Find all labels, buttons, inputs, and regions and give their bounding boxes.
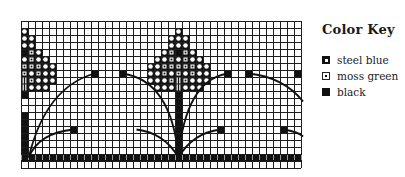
legend-item-steel-blue: steel blue (322, 52, 404, 68)
steel-blue-swatch-icon (322, 56, 330, 64)
color-key: Color Key steel blue moss green black (322, 22, 404, 100)
legend-label: black (337, 86, 366, 98)
moss-green-swatch-icon (322, 72, 330, 80)
legend-item-black: black (322, 84, 404, 100)
legend-label: moss green (337, 70, 398, 82)
grid-lines (21, 21, 302, 169)
legend-label: steel blue (337, 54, 389, 66)
legend-item-moss-green: moss green (322, 68, 404, 84)
black-swatch-icon (322, 88, 330, 96)
color-key-title: Color Key (322, 22, 404, 37)
